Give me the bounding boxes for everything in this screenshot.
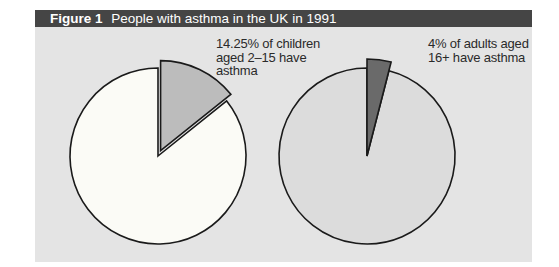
children-pie bbox=[70, 61, 246, 244]
adults-pie bbox=[279, 59, 455, 244]
adults-annotation-line: 4% of adults aged bbox=[428, 37, 529, 51]
figure-panel: Figure 1 People with asthma in the UK in… bbox=[35, 10, 532, 262]
children-annotation-line: 14.25% of children bbox=[216, 37, 320, 51]
adults-annotation-line: 16+ have asthma bbox=[428, 51, 529, 65]
children-annotation-line: aged 2–15 have bbox=[216, 51, 320, 65]
children-annotation: 14.25% of children aged 2–15 have asthma bbox=[216, 37, 320, 78]
adults-annotation: 4% of adults aged 16+ have asthma bbox=[428, 37, 529, 64]
children-annotation-line: asthma bbox=[216, 64, 320, 78]
